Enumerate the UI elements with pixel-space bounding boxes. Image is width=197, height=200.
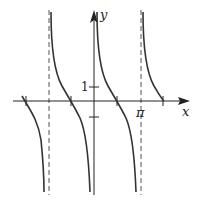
cotangent-graph: y x 1 π — [0, 0, 197, 200]
curve-branch-4 — [143, 12, 164, 101]
x-axis-label: x — [182, 104, 190, 119]
curve-branch-3 — [97, 12, 136, 192]
x-tick-label-pi: π — [135, 105, 145, 120]
curve-branch-1 — [22, 96, 44, 192]
y-axis-label: y — [99, 7, 108, 22]
y-tick-label-1: 1 — [81, 80, 89, 94]
curve-branch-2 — [51, 12, 90, 192]
